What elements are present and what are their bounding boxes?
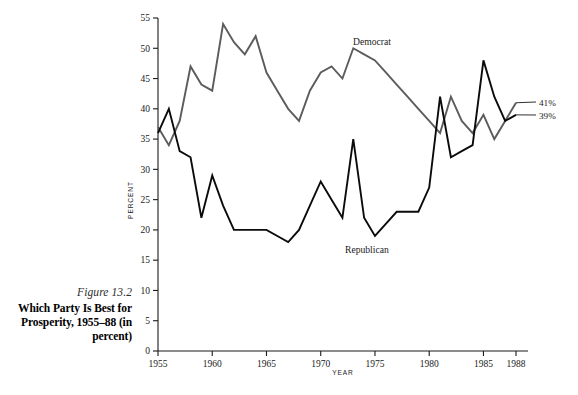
x-axis-title: YEAR: [332, 369, 354, 376]
y-axis: 0510152025303540455055: [141, 13, 159, 356]
x-tick-label-1988: 1988: [507, 359, 526, 369]
y-tick-label-25: 25: [141, 195, 151, 205]
x-tick-label-1960: 1960: [203, 359, 222, 369]
x-tick-label-1955: 1955: [149, 359, 168, 369]
x-axis-ticks: [158, 351, 516, 356]
y-tick-label-30: 30: [141, 165, 151, 175]
y-tick-label-35: 35: [141, 134, 151, 144]
y-tick-label-15: 15: [141, 255, 151, 265]
democrat-end-value: 41%: [539, 98, 556, 108]
series-line-democrat: [158, 24, 516, 145]
series-line-republican: [158, 60, 516, 242]
chart-area: 0510152025303540455055 19551960196519701…: [0, 0, 578, 395]
x-tick-label-1975: 1975: [365, 359, 384, 369]
y-tick-label-40: 40: [141, 104, 151, 114]
x-axis-tick-labels: 19551960196519701975198019851988: [149, 359, 526, 369]
y-tick-label-10: 10: [141, 286, 151, 296]
x-axis: 19551960196519701975198019851988: [149, 351, 529, 369]
x-tick-label-1965: 1965: [257, 359, 276, 369]
x-tick-label-1970: 1970: [311, 359, 330, 369]
line-chart: 0510152025303540455055 19551960196519701…: [0, 0, 578, 395]
y-tick-label-45: 45: [141, 74, 151, 84]
democrat-end-leader-line: [516, 102, 536, 103]
y-axis-tick-labels: 0510152025303540455055: [141, 13, 151, 356]
y-axis-title: PERCENT: [127, 181, 134, 219]
x-tick-label-1980: 1980: [420, 359, 439, 369]
x-tick-label-1985: 1985: [474, 359, 493, 369]
series-label-democrat: Democrat: [353, 36, 391, 47]
y-tick-label-20: 20: [141, 225, 151, 235]
y-tick-label-55: 55: [141, 13, 151, 23]
y-axis-ticks: [153, 18, 158, 351]
series-label-republican: Republican: [345, 244, 389, 255]
republican-end-value: 39%: [539, 111, 556, 121]
figure-container: Figure 13.2 Which Party Is Best for Pros…: [0, 0, 578, 395]
y-tick-label-50: 50: [141, 44, 151, 54]
y-tick-label-0: 0: [145, 346, 150, 356]
y-tick-label-5: 5: [145, 316, 150, 326]
